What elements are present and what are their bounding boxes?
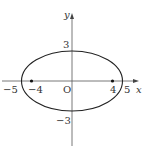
tick-label-x-neg4: −4	[28, 84, 43, 95]
focus-left-point	[30, 79, 33, 82]
ellipse-diagram: y x O −5 −4 4 5 3 −3	[0, 0, 144, 147]
tick-label-x-pos4: 4	[110, 84, 116, 95]
diagram-svg: y x O −5 −4 4 5 3 −3	[0, 0, 144, 147]
tick-label-x-pos5: 5	[124, 84, 130, 95]
y-axis-arrow-icon	[70, 13, 74, 19]
x-axis-label: x	[136, 84, 142, 95]
tick-label-x-neg5: −5	[3, 84, 18, 95]
focus-right-point	[111, 79, 114, 82]
tick-label-y-neg3: −3	[56, 115, 71, 126]
y-axis-label: y	[63, 9, 70, 20]
origin-label: O	[63, 84, 71, 95]
tick-label-y-pos3: 3	[63, 39, 69, 50]
x-axis-arrow-icon	[133, 79, 139, 83]
